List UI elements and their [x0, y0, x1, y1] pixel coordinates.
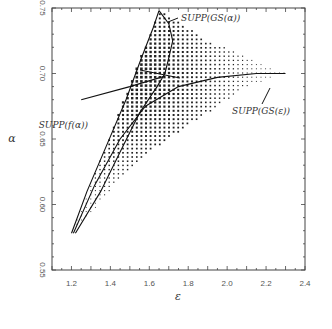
y-axis-title: α — [8, 132, 16, 145]
x-tick-label: 1.4 — [105, 279, 117, 288]
curve-line — [81, 76, 165, 100]
x-tick-label: 1.8 — [183, 279, 195, 288]
y-tick-label: 0.60 — [38, 197, 47, 213]
annotation-label: SUPP(GS(ε)) — [232, 106, 291, 116]
x-axis: 1.21.41.61.82.02.22.4 — [52, 8, 311, 288]
annotation-label: SUPP(f(α)) — [39, 120, 89, 130]
y-tick-label: 0.75 — [38, 0, 47, 16]
x-tick-label: 2.0 — [222, 279, 234, 288]
x-axis-title: ε — [175, 290, 181, 303]
y-tick-label: 0.65 — [38, 131, 47, 147]
dot-field — [77, 13, 285, 224]
chart: 1.21.41.61.82.02.22.4 0.550.600.650.700.… — [0, 0, 332, 329]
curve-line — [75, 11, 172, 234]
x-tick-label: 1.2 — [66, 279, 78, 288]
annotation-label: SUPP(GS(α)) — [181, 13, 241, 23]
y-axis: 0.550.600.650.700.75 — [38, 0, 305, 278]
y-tick-label: 0.70 — [38, 66, 47, 82]
x-tick-label: 2.4 — [299, 279, 311, 288]
y-tick-label: 0.55 — [38, 262, 47, 278]
x-tick-label: 2.2 — [261, 279, 273, 288]
x-tick-label: 1.6 — [144, 279, 156, 288]
